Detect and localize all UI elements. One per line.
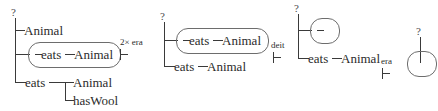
tree-2-spine (164, 22, 165, 66)
tree-1-branch-3-link (49, 82, 66, 83)
operator-2-label: deit (271, 41, 285, 50)
tree-2-root-label: ? (160, 11, 165, 22)
tree-3-root-label: ? (294, 3, 299, 14)
tree-1-branch-3-subspine (65, 82, 66, 100)
tree-3-branch-2-label: eats (308, 52, 328, 65)
tree-3-branch-1-stub (317, 30, 324, 31)
tree-3-branch-1-box (310, 18, 340, 44)
tree-1-branch-2-child-label: Animal (74, 48, 113, 61)
tree-3-branch-2-child-label: Animal (341, 52, 380, 65)
figure-canvas: ? Animal eats Animal eats Animal hasWool… (0, 0, 438, 111)
tree-2-branch-2-child-label: Animal (207, 60, 246, 73)
tree-2-branch-1-label: eats (189, 34, 209, 47)
tree-1-branch-1-label: Animal (24, 24, 63, 37)
tree-1: ? Animal eats Animal eats Animal hasWool (0, 0, 130, 111)
operator-1-turnstile-icon (120, 49, 129, 60)
tree-3: ? eats Animal (290, 0, 380, 111)
tree-1-root-label: ? (11, 7, 16, 18)
tree-2-branch-1-child-label: Animal (222, 34, 261, 47)
tree-4-branch-1-box (407, 51, 437, 77)
operator-3-turnstile-icon (382, 68, 391, 79)
tree-1-branch-2-label: eats (41, 48, 61, 61)
tree-1-branch-3-label: eats (25, 76, 45, 89)
tree-1-branch-3-child-2-label: hasWool (73, 94, 118, 107)
tree-3-spine (298, 14, 299, 58)
tree-2-branch-2-label: eats (174, 60, 194, 73)
tree-4-root-label: ? (416, 26, 421, 37)
tree-1-branch-3-child-1-label: Animal (73, 76, 112, 89)
tree-4: ? (405, 0, 438, 111)
operator-3-label: era (381, 57, 392, 66)
tree-2: ? eats Animal eats Animal (155, 0, 265, 111)
tree-1-spine (15, 18, 16, 82)
operator-1-label: 2× era (120, 38, 143, 47)
operator-2-turnstile-icon (273, 52, 282, 63)
